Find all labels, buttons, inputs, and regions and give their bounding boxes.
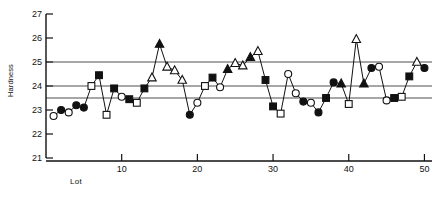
data-point-marker — [262, 77, 269, 84]
data-point-marker — [292, 90, 299, 97]
x-tick-label-group: 1020304050 — [117, 164, 430, 174]
data-point-marker — [133, 99, 140, 106]
data-marker-group — [50, 35, 428, 120]
hardness-run-chart: Hardness Lot 21222324252627 1020304050 — [0, 0, 438, 205]
data-point-marker — [360, 79, 368, 87]
x-tick-label: 10 — [117, 164, 127, 174]
data-point-marker — [307, 99, 314, 106]
y-tick-label: 25 — [32, 57, 42, 67]
data-point-marker — [73, 102, 80, 109]
data-point-marker — [231, 59, 239, 67]
data-line — [54, 39, 425, 116]
data-point-marker — [65, 109, 72, 116]
data-point-marker — [155, 39, 163, 47]
data-point-marker — [194, 99, 201, 106]
data-point-marker — [376, 63, 383, 70]
y-tick-label: 27 — [32, 9, 42, 19]
data-point-marker — [391, 95, 398, 102]
x-tick-label: 30 — [268, 164, 278, 174]
y-tick-label: 21 — [32, 153, 42, 163]
x-tick-label: 50 — [419, 164, 429, 174]
x-tick-label: 40 — [344, 164, 354, 174]
data-point-marker — [270, 103, 277, 110]
data-point-marker — [111, 85, 118, 92]
x-tick-mark-group — [122, 154, 425, 161]
data-point-marker — [246, 53, 254, 61]
data-point-marker — [383, 97, 390, 104]
data-point-marker — [141, 85, 148, 92]
data-point-marker — [163, 62, 171, 70]
data-point-marker — [80, 104, 87, 111]
y-tick-label: 24 — [32, 81, 42, 91]
data-point-marker — [58, 107, 65, 114]
data-point-marker — [88, 83, 95, 90]
data-point-marker — [300, 98, 307, 105]
data-point-marker — [217, 84, 224, 91]
data-point-marker — [413, 57, 421, 65]
data-point-marker — [209, 74, 216, 81]
data-point-marker — [126, 96, 133, 103]
plot-area: 21222324252627 1020304050 — [0, 0, 438, 205]
data-point-marker — [186, 111, 193, 118]
data-point-marker — [368, 65, 375, 72]
y-tick-label: 22 — [32, 129, 42, 139]
data-point-marker — [421, 65, 428, 72]
data-point-marker — [96, 72, 103, 79]
data-point-marker — [323, 95, 330, 102]
data-point-marker — [148, 73, 156, 81]
data-point-marker — [103, 111, 110, 118]
data-point-marker — [285, 71, 292, 78]
y-tick-label: 23 — [32, 105, 42, 115]
data-point-marker — [330, 79, 337, 86]
y-tick-label-group: 21222324252627 — [32, 9, 42, 163]
y-tick-label: 26 — [32, 33, 42, 43]
data-point-marker — [315, 109, 322, 116]
data-point-marker — [254, 47, 262, 55]
x-tick-label: 20 — [192, 164, 202, 174]
data-point-marker — [352, 35, 360, 43]
data-point-marker — [398, 93, 405, 100]
data-point-marker — [118, 93, 125, 100]
data-point-marker — [406, 73, 413, 80]
data-point-marker — [50, 113, 57, 120]
data-point-marker — [277, 110, 284, 117]
data-point-marker — [223, 65, 231, 73]
data-point-marker — [345, 101, 352, 108]
data-point-marker — [202, 83, 209, 90]
